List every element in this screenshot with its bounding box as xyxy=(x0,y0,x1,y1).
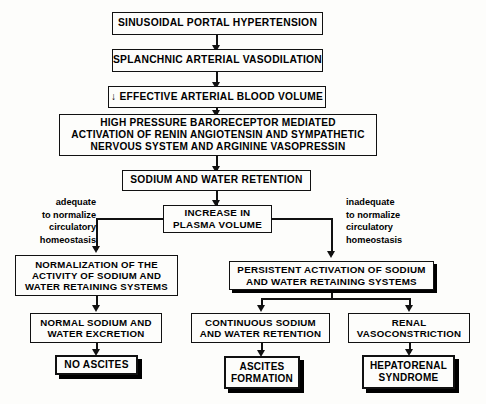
node-no-ascites: NO ASCITES xyxy=(55,355,138,375)
connector-n6-left-horizontal xyxy=(96,218,164,220)
node-normalization-activity: NORMALIZATION OF THE ACTIVITY OF SODIUM … xyxy=(15,255,178,296)
node-effective-arterial-blood-volume: ↓ EFFECTIVE ARTERIAL BLOOD VOLUME xyxy=(108,86,326,108)
node-ascites-formation: ASCITES FORMATION xyxy=(224,356,300,389)
arrowhead-n6-n7 xyxy=(92,246,100,253)
node-hepatorenal-syndrome: HEPATORENAL SYNDROME xyxy=(362,355,455,389)
node-persistent-activation: PERSISTENT ACTIVATION OF SODIUM AND WATE… xyxy=(229,261,434,290)
node-increase-plasma-volume: INCREASE IN PLASMA VOLUME xyxy=(163,205,272,233)
arrowhead-n8-n10 xyxy=(257,305,265,312)
arrowhead-n8-n11 xyxy=(405,305,413,312)
node-baroreceptor-activation: HIGH PRESSURE BARORECEPTOR MEDIATED ACTI… xyxy=(59,114,377,156)
edge-label-inadequate: inadequate to normalize circulatory home… xyxy=(346,196,436,247)
connector-n8-split-bar xyxy=(261,298,410,300)
node-normal-sodium-excretion: NORMAL SODIUM AND WATER EXCRETION xyxy=(30,313,162,343)
arrowhead-n7-n9 xyxy=(92,305,100,312)
node-continuous-sodium-retention: CONTINUOUS SODIUM AND WATER RETENTION xyxy=(191,313,330,343)
node-renal-vasoconstriction: RENAL VASOCONSTRICTION xyxy=(348,313,470,343)
connector-n6-right-horizontal xyxy=(271,218,332,220)
node-splanchnic-arterial-vasodilation: SPLANCHNIC ARTERIAL VASODILATION xyxy=(112,49,323,72)
node-sinusoidal-portal-hypertension: SINUSOIDAL PORTAL HYPERTENSION xyxy=(112,12,323,35)
node-sodium-water-retention: SODIUM AND WATER RETENTION xyxy=(122,170,311,191)
arrowhead-n6-n8 xyxy=(327,251,335,258)
edge-label-adequate: adequate to normalize circulatory homeos… xyxy=(20,196,96,247)
flowchart-canvas: SINUSOIDAL PORTAL HYPERTENSION SPLANCHNI… xyxy=(0,0,486,404)
connector-n6-right-vertical xyxy=(331,218,333,255)
